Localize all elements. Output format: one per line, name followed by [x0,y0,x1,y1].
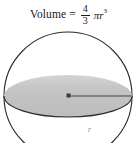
sphere-svg [0,26,137,143]
fraction-denominator: 3 [83,16,88,27]
sphere-volume-figure: Volume = 4 3 π r 3 [0,0,137,143]
fraction-four-thirds: 4 3 [81,4,90,26]
formula-equals-sign: = [69,9,76,21]
sphere-diagram: r [0,26,137,143]
formula-row: Volume = 4 3 π r 3 [30,4,107,26]
volume-formula: Volume = 4 3 π r 3 [0,2,137,28]
formula-label-volume: Volume [30,9,66,21]
exponent-three: 3 [103,8,107,15]
fraction-numerator: 4 [83,4,88,15]
center-dot [67,94,71,98]
